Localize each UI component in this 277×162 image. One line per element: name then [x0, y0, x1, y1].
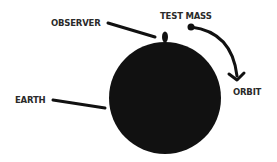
observer-figure — [162, 32, 168, 43]
orbit-label: ORBIT — [233, 87, 261, 97]
earth-label: EARTH — [15, 95, 45, 105]
test-mass-label: TEST MASS — [160, 11, 212, 21]
observer-label: OBSERVER — [51, 18, 101, 28]
earth-orbit-diagram: OBSERVER TEST MASS ORBIT EARTH — [0, 0, 277, 162]
diagram-canvas — [0, 0, 277, 162]
earth-circle — [109, 42, 221, 154]
earth-leader-line — [53, 100, 105, 108]
observer-leader-line — [108, 23, 155, 37]
